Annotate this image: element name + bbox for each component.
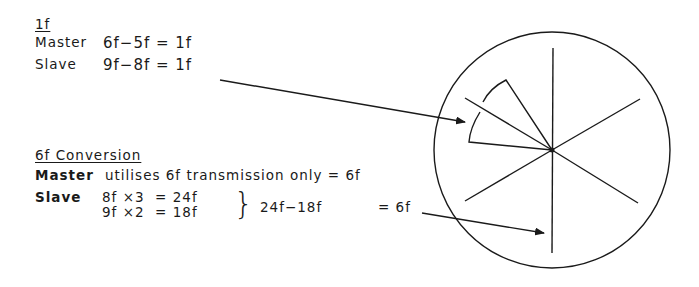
arrow-6f	[422, 213, 544, 233]
center-hub	[550, 148, 555, 153]
spoke-upper-right	[552, 99, 640, 150]
spoke-lower-left	[465, 150, 552, 201]
phase-diagram	[0, 0, 699, 287]
phase-sector	[469, 80, 552, 150]
spoke-lower-right	[552, 150, 638, 203]
arrow-1f	[220, 80, 465, 122]
